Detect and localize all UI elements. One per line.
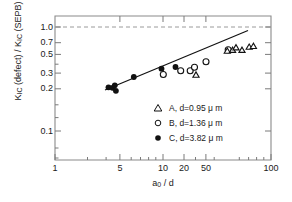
y-tick-label-0p2: 0.2 [27,84,53,93]
y-tick-label-0p5: 0.5 [27,50,53,59]
y-tick-label-0p3: 0.3 [27,69,53,78]
filled-circle-icon [150,132,166,144]
y-tick-label-1: 1.0 [27,23,53,32]
legend-label-a: A, d=0.95 μ m [169,103,222,113]
legend-item-b: B, d=1.36 μ m [150,115,223,130]
legend-item-c: C, d=3.82 μ m [150,130,223,145]
y-axis-title: KIC (defect) / KIC (SEPB) [13,0,23,121]
y-title-sub-1: IC [16,88,23,95]
x-tick-label-1: 1 [43,164,67,173]
legend-item-a: A, d=0.95 μ m [150,100,223,115]
legend: A, d=0.95 μ m B, d=1.36 μ m C, d=3.82 μ … [150,100,223,145]
open-triangle-icon [150,102,166,114]
x-tick-label-50: 50 [194,164,218,173]
y-tick-label-0p7: 0.7 [27,38,53,47]
x-tick-label-5: 5 [108,164,132,173]
legend-label-c: C, d=3.82 μ m [169,133,223,143]
x-tick-label-100: 100 [259,164,283,173]
x-axis-title: a0 / d [55,178,271,188]
y-title-sub-2: IC [16,34,23,41]
legend-label-b: B, d=1.36 μ m [169,118,222,128]
y-tick-label-0p1: 0.1 [27,127,53,136]
open-circle-icon [150,117,166,129]
x-tick-label-20: 20 [172,164,196,173]
